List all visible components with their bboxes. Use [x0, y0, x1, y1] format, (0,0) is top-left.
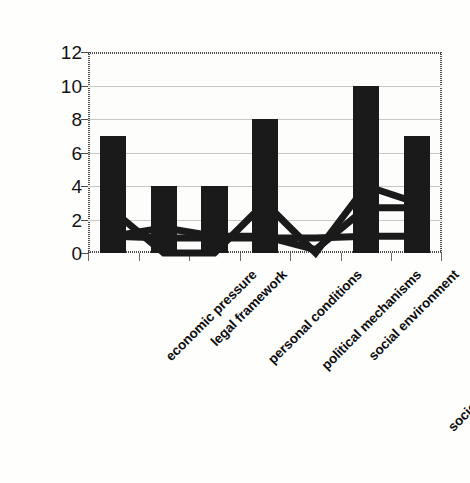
x-axis-tick-label: socio-cultural values and practices	[445, 267, 470, 434]
chart-figure: 024681012 economic pressurelegal framewo…	[0, 0, 470, 483]
x-axis: economic pressurelegal frameworkpersonal…	[0, 0, 470, 483]
